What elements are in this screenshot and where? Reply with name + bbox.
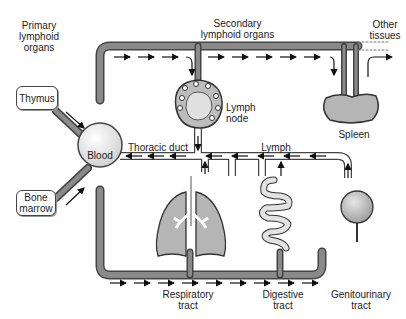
heading-secondary-lymphoid-organs: Secondary lymphoid organs bbox=[195, 18, 280, 40]
thoracic-duct-label: Thoracic duct bbox=[128, 142, 198, 153]
spleen-graphic bbox=[324, 94, 379, 123]
bladder-graphic bbox=[341, 191, 373, 223]
blood-label: Blood bbox=[82, 150, 118, 161]
bone-marrow-box: Bone marrow bbox=[16, 190, 56, 216]
heading-primary-lymphoid-organs: Primary lymphoid organs bbox=[14, 20, 64, 53]
spleen-label: Spleen bbox=[334, 129, 374, 140]
genitourinary-tract-label: Genitourinary tract bbox=[326, 289, 396, 311]
thymus-box: Thymus bbox=[16, 86, 58, 110]
flow-arrows-top bbox=[114, 57, 392, 77]
lungs-graphic bbox=[156, 176, 225, 256]
lymph-node-label: Lymph node bbox=[226, 102, 254, 124]
lymph-node-graphic bbox=[175, 80, 222, 128]
lymph-label: Lymph bbox=[258, 142, 294, 153]
heading-other-tissues: Other tissues bbox=[366, 19, 404, 41]
respiratory-tract-label: Respiratory tract bbox=[160, 289, 216, 311]
lymphocyte-circulation-diagram: Primary lymphoid organs Secondary lympho… bbox=[0, 0, 406, 319]
digestive-tract-label: Digestive tract bbox=[258, 289, 308, 311]
